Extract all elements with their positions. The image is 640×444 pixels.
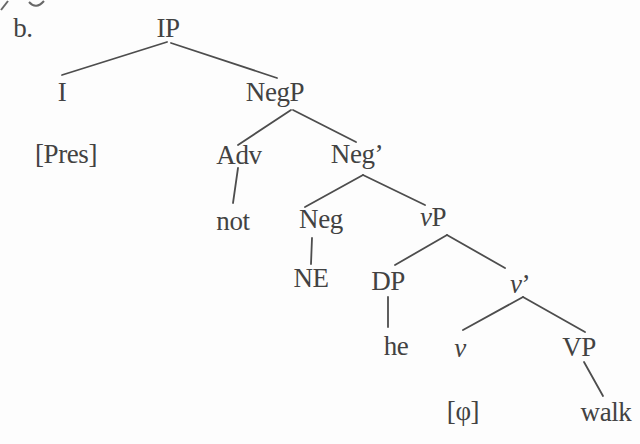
node-dp: DP: [371, 268, 405, 295]
node-he: he: [384, 333, 409, 360]
node-neg-bar: Neg’: [331, 141, 383, 168]
node-walk: walk: [581, 399, 632, 426]
node-phi-feature: [φ]: [447, 398, 479, 425]
branch-ip-i: [62, 42, 167, 75]
branch-neg-bar-neg: [305, 175, 363, 207]
node-i: I: [58, 79, 67, 106]
branch-neg-ne: [311, 238, 312, 264]
branch-vp-walk: [584, 362, 603, 396]
node-ne: NE: [293, 265, 328, 292]
scanned-page: b. IPINegP[Pres]AdvNeg’notNegvPNEDPv’hev…: [0, 0, 640, 444]
branch-small-v-bar-vp: [523, 297, 585, 332]
branch-ip-negp: [171, 43, 277, 78]
node-pres-feature: [Pres]: [35, 141, 97, 168]
branch-small-vp-dp: [395, 235, 447, 265]
node-not: not: [216, 208, 249, 235]
page-edge-mark-1: [1, 1, 8, 10]
node-small-v: v: [454, 335, 466, 362]
node-vp: VP: [562, 334, 596, 361]
node-ip: IP: [156, 15, 179, 42]
branch-adv-not: [233, 168, 238, 203]
branch-small-vp-small-v-bar: [447, 235, 505, 268]
branch-neg-bar-small-vp: [363, 175, 425, 205]
branch-negp-neg-bar: [293, 110, 356, 142]
node-small-vp: vP: [420, 204, 446, 231]
node-small-v-bar: v’: [510, 271, 530, 298]
node-negp: NegP: [246, 79, 304, 106]
page-edge-mark-2: [29, 1, 44, 6]
node-neg: Neg: [299, 206, 343, 233]
branch-small-v-bar-small-v: [463, 297, 523, 330]
node-adv: Adv: [216, 142, 261, 169]
